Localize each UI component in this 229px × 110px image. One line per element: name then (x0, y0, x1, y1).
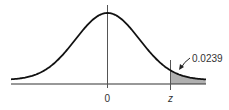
mean-tick-label: 0 (105, 93, 111, 104)
z-tick-label: z (167, 93, 173, 104)
bell-curve (11, 13, 206, 79)
shaded-area-label: 0.0239 (192, 53, 223, 64)
normal-distribution-diagram: 0.0239 0 z (0, 0, 229, 110)
